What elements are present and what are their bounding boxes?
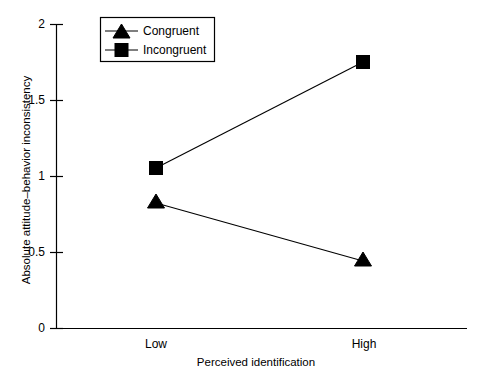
chart-figure: 2 1.5 1 0.5 0 Absolute attitude–behavior… [0, 0, 481, 376]
y-axis-title: Absolute attitude–behavior inconsistency [20, 76, 32, 285]
legend-marker-incongruent-square-icon [115, 44, 128, 57]
x-axis-title: Perceived identification [197, 356, 315, 368]
y-tick-label-1: 1 [38, 169, 45, 183]
x-tick-label-high: High [352, 337, 377, 351]
y-tick-label-0: 0 [38, 321, 45, 335]
data-point-incongruent-low [150, 162, 163, 175]
legend-label-incongruent: Incongruent [143, 43, 207, 57]
chart-background [0, 0, 481, 376]
legend-label-congruent: Congruent [143, 24, 200, 38]
data-point-incongruent-high [357, 56, 370, 69]
line-chart-canvas: 2 1.5 1 0.5 0 Absolute attitude–behavior… [0, 0, 481, 376]
x-tick-label-low: Low [145, 337, 167, 351]
y-tick-label-2: 2 [38, 17, 45, 31]
